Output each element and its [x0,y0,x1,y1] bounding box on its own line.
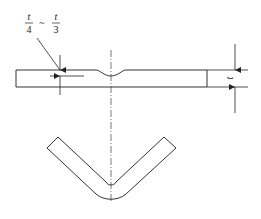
svg-text:3: 3 [54,24,59,35]
diagram-svg: t 4 ~ t 3 t [0,0,261,219]
groove-depth-dimension [37,38,84,95]
groove-depth-label: t 4 ~ t 3 [25,11,60,35]
svg-text:4: 4 [27,24,32,35]
bent-part [47,137,176,199]
thickness-label: t [224,76,235,79]
bend-groove-diagram: t 4 ~ t 3 t [0,0,261,219]
svg-text:t: t [55,11,58,22]
svg-text:t: t [28,11,31,22]
svg-text:~: ~ [39,17,45,28]
flat-plate [16,70,207,87]
